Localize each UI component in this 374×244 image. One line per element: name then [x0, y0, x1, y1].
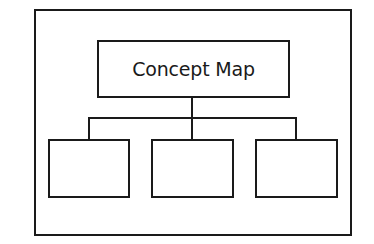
branch-connector-2: [191, 117, 193, 140]
root-node-label: Concept Map: [132, 58, 255, 80]
branch-connector-3: [295, 117, 297, 140]
child-node-2: [151, 139, 234, 198]
child-node-3: [255, 139, 338, 198]
trunk-connector: [191, 97, 193, 119]
branch-connector-1: [88, 117, 90, 140]
root-node: Concept Map: [97, 40, 290, 98]
child-node-1: [48, 139, 130, 198]
